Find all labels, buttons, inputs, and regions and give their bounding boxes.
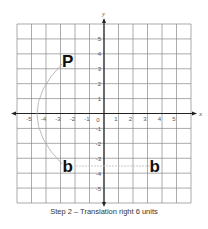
letter-after-translation: b xyxy=(150,157,160,176)
svg-text:-1: -1 xyxy=(96,126,102,132)
svg-text:1: 1 xyxy=(98,96,102,102)
svg-text:-4: -4 xyxy=(41,116,47,122)
coordinate-plane: xy -5-4-3-2-11234554321-1-2-3-4-50 Pbb xyxy=(0,0,208,229)
svg-text:-1: -1 xyxy=(84,116,90,122)
svg-text:-2: -2 xyxy=(96,141,102,147)
svg-text:3: 3 xyxy=(98,66,102,72)
svg-text:2: 2 xyxy=(129,116,133,122)
svg-text:-5: -5 xyxy=(96,186,102,192)
svg-text:2: 2 xyxy=(98,81,102,87)
svg-text:-2: -2 xyxy=(70,116,76,122)
svg-text:5: 5 xyxy=(172,116,176,122)
svg-text:3: 3 xyxy=(143,116,147,122)
axes: xy xyxy=(11,10,203,207)
svg-text:-5: -5 xyxy=(26,116,32,122)
svg-text:-3: -3 xyxy=(96,156,102,162)
svg-text:x: x xyxy=(198,110,203,118)
letter-after-reflection: b xyxy=(63,157,73,176)
svg-text:1: 1 xyxy=(114,116,118,122)
svg-text:4: 4 xyxy=(98,51,102,57)
letter-original: P xyxy=(62,52,73,71)
svg-text:-3: -3 xyxy=(55,116,61,122)
svg-text:5: 5 xyxy=(98,36,102,42)
svg-text:y: y xyxy=(101,10,106,18)
svg-text:0: 0 xyxy=(96,117,100,123)
svg-text:4: 4 xyxy=(158,116,162,122)
caption: Step 2 – Translation right 6 units xyxy=(0,207,208,216)
svg-text:-4: -4 xyxy=(96,171,102,177)
